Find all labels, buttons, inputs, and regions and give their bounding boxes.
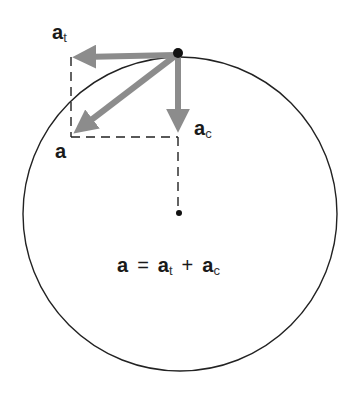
equation-term2: a [202, 254, 213, 276]
particle-dot [173, 48, 183, 58]
acceleration-equation: a=at+ac [117, 254, 220, 278]
label-a-total: a [55, 141, 66, 161]
equation-plus: + [182, 254, 194, 276]
equation-lhs: a [117, 254, 128, 276]
label-a-c: ac [194, 118, 212, 140]
equation-term2-subscript: c [213, 263, 220, 278]
acceleration-diagram [0, 0, 348, 408]
total-acceleration-arrow [82, 56, 175, 127]
label-a-t-subscript: t [63, 30, 67, 45]
center-dot [176, 210, 182, 216]
label-a-total-base: a [55, 140, 66, 162]
equation-equals: = [137, 254, 149, 276]
tangential-acceleration-arrow [83, 55, 176, 57]
dashed-construction-lines [71, 57, 178, 213]
equation-term1-subscript: t [169, 263, 173, 278]
label-a-c-base: a [194, 117, 205, 139]
label-a-c-subscript: c [205, 126, 212, 141]
equation-term1: a [158, 254, 169, 276]
label-a-t-base: a [52, 21, 63, 43]
label-a-t: at [52, 22, 67, 44]
